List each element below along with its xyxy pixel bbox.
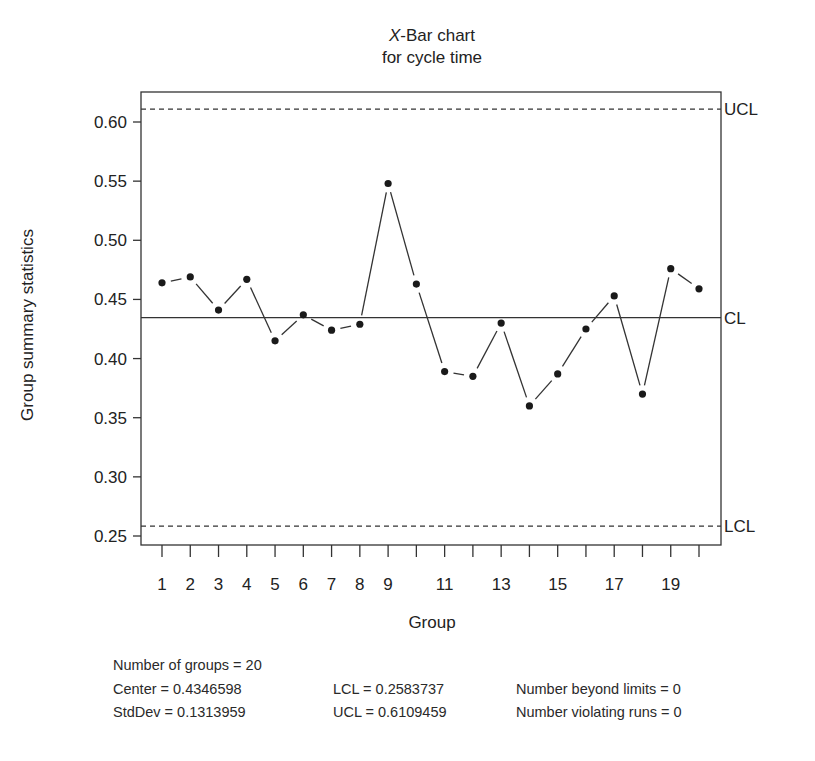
series-segment (477, 331, 497, 368)
x-tick-label: 8 (355, 575, 364, 594)
y-tick-label: 0.50 (94, 231, 127, 250)
stat-violating-runs: Number violating runs = 0 (516, 704, 682, 720)
data-point (243, 276, 250, 283)
data-point (187, 273, 194, 280)
lcl-label: LCL (724, 517, 755, 536)
y-tick-label: 0.60 (94, 113, 127, 132)
data-point (158, 279, 165, 286)
stat-lcl: LCL = 0.2583737 (333, 681, 444, 697)
stat-center: Center = 0.4346598 (113, 681, 242, 697)
y-tick-label: 0.55 (94, 172, 127, 191)
stat-number-of-groups: Number of groups = 20 (113, 657, 262, 673)
x-tick-label: 15 (548, 575, 567, 594)
data-point (328, 327, 335, 334)
series-segment (504, 332, 526, 398)
series-segment (282, 321, 297, 335)
data-point (695, 285, 702, 292)
data-point (215, 306, 222, 313)
series-segment (340, 326, 351, 328)
series-segment (196, 284, 213, 303)
x-tick-label: 11 (436, 575, 454, 594)
x-tick-label: 3 (214, 575, 223, 594)
x-axis-label: Group (408, 613, 455, 632)
chart-subtitle: for cycle time (382, 48, 482, 67)
xbar-chart: X-Bar chart for cycle time 0.250.300.350… (0, 0, 815, 640)
data-point (469, 373, 476, 380)
series-segment (171, 279, 182, 281)
series-segment (678, 274, 692, 284)
x-tick-label: 17 (605, 575, 624, 594)
data-point (582, 325, 589, 332)
series-segment (535, 381, 551, 399)
stat-ucl: UCL = 0.6109459 (333, 704, 447, 720)
x-tick-label: 7 (327, 575, 336, 594)
chart-title: X-Bar chart (388, 26, 475, 45)
y-tick-label: 0.35 (94, 409, 127, 428)
plot-area: 0.250.300.350.400.450.500.550.6012345678… (94, 92, 758, 594)
plot-frame (141, 92, 721, 545)
ucl-label: UCL (724, 100, 758, 119)
x-tick-label: 9 (383, 575, 392, 594)
data-point (554, 370, 561, 377)
series-segment (617, 305, 640, 386)
data-point (611, 292, 618, 299)
y-tick-label: 0.30 (94, 468, 127, 487)
x-tick-label: 1 (157, 575, 166, 594)
data-point (441, 368, 448, 375)
series-segment (592, 303, 609, 322)
series-segment (225, 286, 241, 304)
series-segment (454, 373, 465, 375)
series-segment (251, 287, 272, 332)
x-tick-label: 19 (661, 575, 680, 594)
x-tick-label: 4 (242, 575, 251, 594)
data-point (356, 321, 363, 328)
series-segment (562, 337, 581, 367)
series-segment (311, 319, 323, 326)
cl-label: CL (724, 309, 746, 328)
stat-stddev: StdDev = 0.1313959 (113, 704, 246, 720)
y-tick-label: 0.40 (94, 350, 127, 369)
series-segment (644, 277, 668, 385)
x-tick-label: 13 (492, 575, 511, 594)
series-segment (391, 192, 414, 275)
series-segment (419, 293, 442, 363)
y-tick-label: 0.25 (94, 527, 127, 546)
data-point (413, 280, 420, 287)
y-axis-label: Group summary statistics (18, 229, 37, 421)
data-point (526, 402, 533, 409)
data-point (498, 319, 505, 326)
data-point (639, 390, 646, 397)
x-tick-label: 6 (299, 575, 308, 594)
series-segment (362, 192, 387, 315)
data-point (667, 265, 674, 272)
data-point (385, 180, 392, 187)
data-point (271, 337, 278, 344)
data-point (300, 311, 307, 318)
x-tick-label: 5 (270, 575, 279, 594)
x-tick-label: 2 (186, 575, 195, 594)
stat-beyond-limits: Number beyond limits = 0 (516, 681, 681, 697)
y-tick-label: 0.45 (94, 290, 127, 309)
